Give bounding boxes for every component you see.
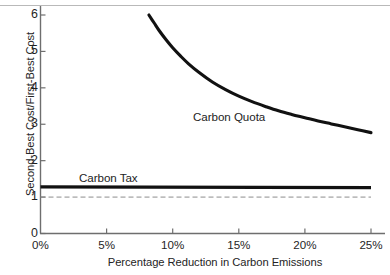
- carbon-tax-line: [41, 187, 372, 188]
- carbon-tax-label: Carbon Tax: [79, 171, 138, 184]
- x-axis-title: Percentage Reduction in Carbon Emissions: [40, 256, 390, 268]
- y-axis-ticks: [41, 15, 46, 234]
- x-tick-label: 15%: [214, 239, 264, 251]
- x-axis-ticks: [107, 229, 371, 234]
- x-tick-label: 25%: [346, 239, 390, 251]
- x-tick-label: 10%: [148, 239, 198, 251]
- x-tick-label: 20%: [280, 239, 330, 251]
- x-tick-label: 0%: [16, 239, 66, 251]
- x-tick-label: 5%: [82, 239, 132, 251]
- chart-plot-area: [0, 0, 390, 275]
- carbon-quota-label: Carbon Quota: [193, 110, 265, 123]
- chart-figure: 0123456 0%5%10%15%20%25% Second-Best Cos…: [0, 0, 390, 275]
- y-axis-title: Second-Best Cost/First-Best Cost: [24, 0, 36, 230]
